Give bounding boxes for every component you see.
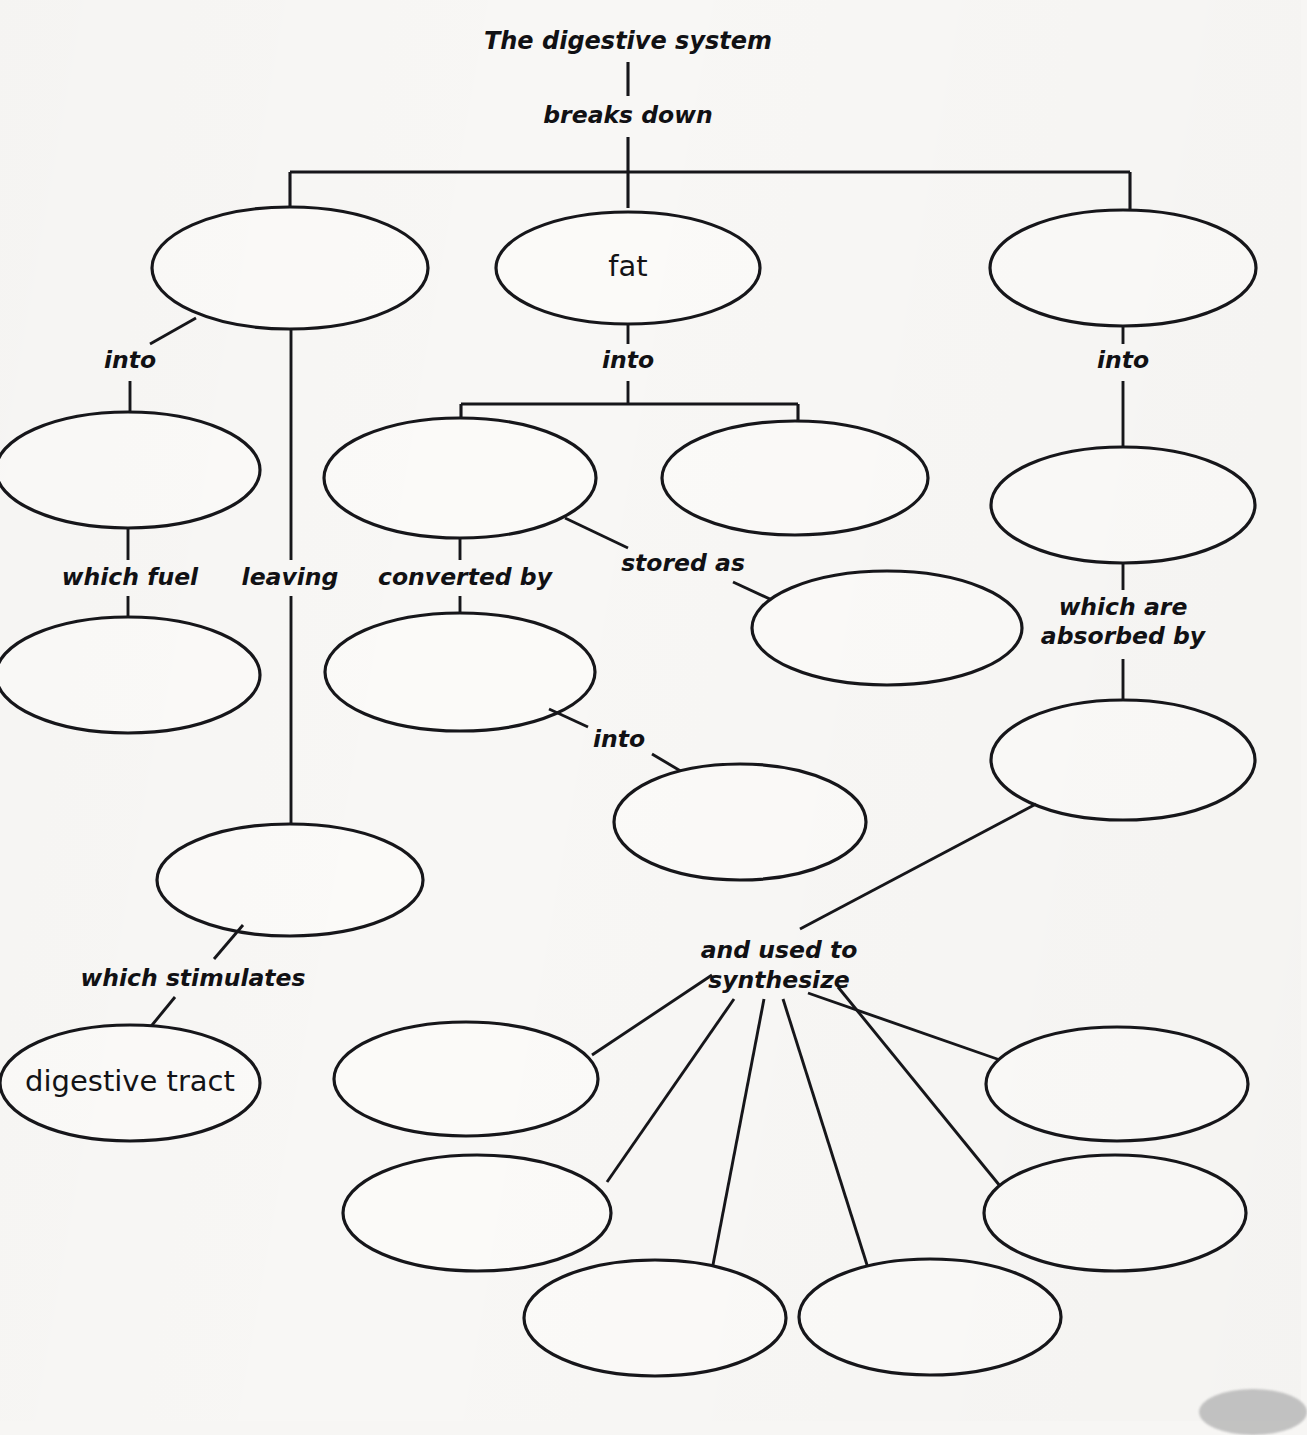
node-glycerol-blank[interactable] xyxy=(662,421,928,535)
node-synthesized-product-2-blank[interactable] xyxy=(343,1155,611,1271)
node-synthesized-product-5-blank[interactable] xyxy=(986,1027,1248,1141)
link-label-breaks-down: breaks down xyxy=(543,101,712,129)
edge-synth-ray-1 xyxy=(592,975,712,1055)
link-label-converted-by: converted by xyxy=(378,563,554,591)
link-label-into-mid: into xyxy=(602,346,654,374)
node-sugars-blank[interactable] xyxy=(0,412,260,528)
link-label-which-stimulates: which stimulates xyxy=(81,964,306,992)
root-title: The digestive system xyxy=(484,27,772,55)
link-label-into-left: into xyxy=(104,346,156,374)
node-synthesized-product-6-blank[interactable] xyxy=(984,1155,1246,1271)
link-label-into-right: into xyxy=(1097,346,1149,374)
node-liver-blank[interactable] xyxy=(325,613,595,731)
link-label-which-fuel: which fuel xyxy=(62,563,199,591)
node-cells-blank[interactable] xyxy=(0,617,260,733)
link-label-leaving: leaving xyxy=(242,563,339,591)
link-label-and-used-to: and used to xyxy=(701,936,858,964)
node-fat-label: fat xyxy=(608,249,647,283)
node-synthesized-product-3-blank[interactable] xyxy=(524,1260,786,1376)
edge-synth-ray-2 xyxy=(607,999,734,1182)
node-digestive-tract-label: digestive tract xyxy=(25,1064,235,1098)
link-label-synthesize: synthesize xyxy=(708,966,850,994)
edge-liver-to-into xyxy=(549,709,588,727)
node-amino-acids-blank[interactable] xyxy=(991,447,1255,563)
edge-synth-ray-4 xyxy=(783,999,868,1268)
node-synthesized-product-4-blank[interactable] xyxy=(799,1259,1061,1375)
node-carbohydrate-blank[interactable] xyxy=(152,207,428,329)
node-blood-blank[interactable] xyxy=(991,700,1255,820)
node-fatty-acids-blank[interactable] xyxy=(324,418,596,538)
node-adipose-blank[interactable] xyxy=(752,571,1022,685)
node-fiber-blank[interactable] xyxy=(157,824,423,936)
node-synthesized-product-1-blank[interactable] xyxy=(334,1022,598,1136)
link-label-which-are: which are xyxy=(1059,593,1188,621)
edge-synth-ray-3 xyxy=(712,999,764,1270)
node-protein-blank[interactable] xyxy=(990,210,1256,326)
link-label-stored-as: stored as xyxy=(621,549,745,577)
scan-artifact-blob xyxy=(1199,1389,1307,1435)
edge-synth-ray-5 xyxy=(808,993,1000,1060)
edge-fattyacids-to-storedas xyxy=(565,518,628,548)
edge-carbohydrate-to-into xyxy=(150,318,196,344)
link-label-into-liver: into xyxy=(593,725,645,753)
edge-synth-ray-6 xyxy=(838,987,1000,1186)
link-label-absorbed-by: absorbed by xyxy=(1041,622,1207,650)
node-ketones-blank[interactable] xyxy=(614,764,866,880)
